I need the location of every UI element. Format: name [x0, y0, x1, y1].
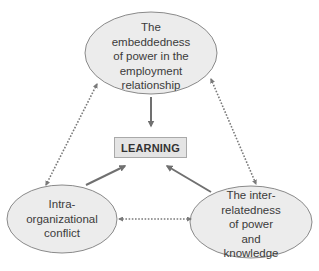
- arrow-right-to-learning: [167, 166, 211, 192]
- learning-label: LEARNING: [121, 142, 180, 154]
- arrow-left-to-learning: [86, 166, 125, 185]
- node-right-line: of power: [206, 217, 296, 232]
- node-top-line: The: [96, 20, 206, 35]
- node-top-line: embeddedness: [96, 35, 206, 50]
- node-top-line: employment: [96, 64, 206, 79]
- dotted-link-top-right: [211, 79, 256, 184]
- node-left-line: Intra-: [12, 197, 112, 212]
- node-top-line: relationship: [96, 78, 206, 93]
- node-right-line: and: [206, 232, 296, 247]
- node-right-line: relatedness: [206, 203, 296, 218]
- node-right-line: The inter-: [206, 188, 296, 203]
- node-right-label: The inter- relatedness of power and know…: [206, 188, 296, 261]
- learning-box: LEARNING: [114, 137, 187, 158]
- node-left-line: organizational: [12, 212, 112, 227]
- node-top-label: The embeddedness of power in the employm…: [96, 20, 206, 93]
- node-left-line: conflict: [12, 226, 112, 241]
- node-top-line: of power in the: [96, 49, 206, 64]
- node-right-line: knowledge: [206, 246, 296, 261]
- dotted-link-top-left: [46, 84, 97, 185]
- node-left-label: Intra- organizational conflict: [12, 197, 112, 241]
